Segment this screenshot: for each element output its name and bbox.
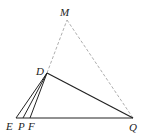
- label-M: M: [59, 6, 70, 18]
- segment-DE: [16, 73, 47, 118]
- segment-DF: [30, 73, 47, 118]
- label-Q: Q: [129, 121, 137, 133]
- segment-MQ: [67, 20, 133, 118]
- geometry-diagram: M D E P F Q: [0, 0, 148, 135]
- label-P: P: [17, 120, 25, 132]
- label-D: D: [35, 65, 44, 77]
- segment-DP: [23, 73, 47, 118]
- label-F: F: [27, 120, 35, 132]
- segment-DQ: [47, 73, 133, 118]
- segment-DM: [47, 20, 67, 73]
- label-E: E: [5, 120, 13, 132]
